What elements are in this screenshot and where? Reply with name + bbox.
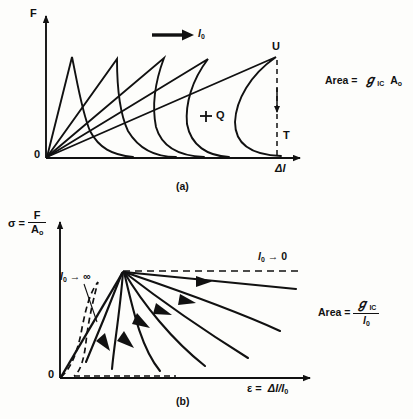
- panel-b-arrowhead-5: [117, 331, 134, 348]
- panel-b-branch-3: [124, 272, 248, 358]
- panel-a-point-u-label: U: [272, 41, 280, 52]
- panel-a-area-symbol-sub: IC: [377, 80, 384, 87]
- panel-a-direction-arrow-sub: 0: [201, 33, 205, 40]
- panel-b-area-prefix: Area =: [318, 307, 350, 318]
- panel-b-dashed-limit-curve: [61, 282, 98, 377]
- panel-b-y-axis-denominator-wrap: Ao: [28, 223, 46, 236]
- panel-a-area-symbol: ℊ: [364, 73, 377, 87]
- panel-a-area-factor-sub: o: [398, 80, 402, 87]
- panel-b-area-numerator-symbol: ℊ: [356, 297, 369, 311]
- panel-b-limit-upper-value: 0: [281, 250, 287, 262]
- panel-b-x-axis-expr: Δl/l: [268, 382, 285, 394]
- panel-a-direction-arrow-label: l0: [198, 28, 205, 41]
- panel-a-caption: (a): [176, 181, 189, 192]
- panel-b-limit-lower-label: l0 → ∞: [60, 271, 91, 284]
- panel-a-plot: [0, 0, 413, 208]
- panel-b-origin-label: 0: [48, 369, 54, 380]
- panel-b-limit-lower-sub: 0: [63, 276, 67, 283]
- panel-a-area-factor: A: [390, 74, 398, 86]
- panel-a-y-axis-label: F: [30, 8, 37, 19]
- panel-b-y-axis-lead: σ =: [8, 218, 25, 229]
- panel-b-limit-lower-value: ∞: [83, 270, 91, 282]
- panel-b-y-axis-denominator: A: [31, 223, 39, 235]
- panel-b-arrowhead-1: [196, 276, 212, 287]
- panel-a-area-prefix: Area =: [325, 74, 357, 86]
- panel-b-area-numerator-wrap: ℊIC: [353, 298, 379, 314]
- panel-b: σ = F Ao ε = Δl/l0 0 l0 → 0 l0 → ∞: [0, 200, 413, 419]
- panel-a-curve-2: [47, 59, 176, 157]
- panel-a-origin-label: 0: [34, 149, 40, 160]
- panel-b-limit-lower-arrow: →: [70, 270, 81, 282]
- panel-a-x-axis-label: Δl: [275, 163, 285, 174]
- panel-b-area-numerator-sub: IC: [369, 304, 376, 311]
- panel-b-x-axis-label: ε = Δl/l0: [247, 383, 288, 395]
- panel-b-y-axis-label: σ = F Ao: [8, 210, 46, 236]
- panel-b-x-axis-lead: ε =: [247, 382, 262, 394]
- panel-b-area-denominator-sub: 0: [366, 319, 370, 326]
- panel-b-limit-upper-sub: 0: [261, 256, 265, 263]
- panel-b-area-note: Area = ℊIC l0: [318, 298, 379, 327]
- panel-b-branch-7: [86, 273, 122, 362]
- panel-b-y-axis-numerator: F: [28, 210, 46, 223]
- panel-a-point-t-label: T: [283, 130, 290, 141]
- panel-b-limit-upper-arrow: →: [268, 250, 279, 262]
- panel-a: F Δl 0 U T Q l0 Area = ℊIC Ao (a): [0, 0, 413, 208]
- panel-a-direction-arrowhead: [182, 30, 194, 41]
- panel-b-x-axis-expr-sub: 0: [284, 387, 288, 396]
- panel-b-y-axis-denominator-sub: o: [39, 228, 43, 237]
- panel-b-y-axis-fraction: F Ao: [28, 210, 46, 236]
- panel-b-area-denominator-wrap: l0: [353, 314, 379, 328]
- panel-b-branch-family: [86, 272, 296, 371]
- panel-b-area-fraction: ℊIC l0: [353, 298, 379, 327]
- panel-b-caption: (b): [176, 396, 189, 407]
- panel-a-area-note: Area = ℊIC Ao: [325, 74, 402, 88]
- panel-b-limit-upper-label: l0 → 0: [258, 251, 287, 264]
- panel-a-curve-family: [47, 57, 281, 157]
- panel-a-point-q-label: Q: [216, 110, 225, 121]
- figure-container: F Δl 0 U T Q l0 Area = ℊIC Ao (a): [0, 0, 413, 419]
